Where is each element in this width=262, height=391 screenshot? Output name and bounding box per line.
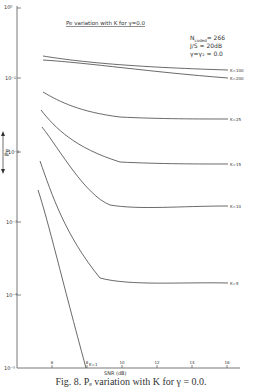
y-axis-label-group: Pe (1, 131, 10, 174)
annotation-js: J/S = 20dB (189, 42, 222, 50)
figure-caption: Fig. 8. Pₑ variation with K for γ = 0.0. (0, 376, 262, 387)
y-tick-label: 10⁻¹ (5, 75, 16, 81)
y-axis-label: Pe (3, 149, 10, 156)
x-tick-label: 10 (119, 360, 125, 365)
parameter-annotation: Ncoded= 266 J/S = 20dB γ=γ₂ = 0.0 (189, 34, 225, 58)
curve-k15 (41, 110, 228, 164)
y-tick-label: 10⁻³ (6, 219, 17, 225)
annotation-gamma: γ=γ₂ = 0.0 (190, 50, 223, 58)
label-k25: K=25 (230, 117, 242, 122)
x-tick-label: 12 (154, 360, 160, 365)
curve-k25 (43, 92, 228, 119)
label-k200: K=200 (230, 76, 244, 81)
curve-k10 (42, 127, 228, 208)
label-k15: K=15 (230, 162, 242, 167)
pe-vs-snr-chart: 10⁰ 10⁻¹ 10⁻² 10⁻³ 10⁻⁴ 10⁻⁵ Pe 6 8 10 1… (0, 0, 262, 391)
label-k100: K=100 (230, 68, 244, 73)
label-k10: K=10 (230, 204, 242, 209)
chart-title: Pe variation with K for γ=0.0 (66, 20, 146, 27)
x-tick-label: 16 (224, 360, 230, 365)
label-k5: K=5 (230, 281, 239, 286)
annotation-n-value: = 266 (207, 34, 226, 41)
curve-k100 (43, 56, 228, 70)
label-k1: K=1 (89, 362, 98, 367)
y-tick-label: 10⁰ (4, 4, 12, 10)
y-tick-label: 10⁻⁵ (4, 365, 15, 371)
y-tick-label: 10⁻⁴ (6, 292, 17, 298)
x-tick-label: 14 (189, 360, 195, 365)
curve-k5 (40, 161, 228, 283)
x-ticks (52, 365, 227, 368)
x-tick-label: 6 (51, 360, 54, 365)
